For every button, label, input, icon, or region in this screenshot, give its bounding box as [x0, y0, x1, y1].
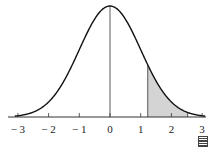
- x-tick-label: 0: [107, 123, 113, 135]
- x-tick-label: − 3: [11, 123, 26, 135]
- x-tick-label: 1: [138, 123, 144, 135]
- x-tick-label: − 2: [41, 123, 55, 135]
- x-tick-label: 2: [169, 123, 175, 135]
- normal-curve-chart: − 3− 2− 10123: [0, 0, 212, 153]
- chart-root: − 3− 2− 10123: [0, 0, 212, 153]
- x-tick-label: − 1: [72, 123, 86, 135]
- x-tick-label: 3: [199, 123, 205, 135]
- table-icon[interactable]: [198, 136, 208, 147]
